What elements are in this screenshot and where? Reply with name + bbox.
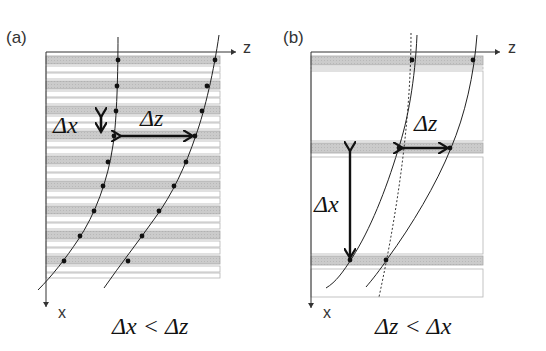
panel-a-x-label: x bbox=[58, 304, 66, 321]
panel-b: (b) z x Δz Δx Δz < Δx bbox=[283, 28, 516, 339]
panel-a-label: (a) bbox=[6, 28, 27, 47]
panel-b-z-label: z bbox=[508, 39, 516, 56]
panel-b-delta-x-label: Δx bbox=[313, 191, 339, 217]
panel-b-relation: Δz < Δx bbox=[374, 313, 452, 339]
panel-b-label: (b) bbox=[283, 28, 304, 47]
panel-b-delta-z-label: Δz bbox=[413, 110, 438, 136]
panel-b-x-label: x bbox=[323, 304, 331, 321]
panel-a-relation: Δx < Δz bbox=[111, 313, 189, 339]
panel-a: (a) bbox=[6, 28, 251, 339]
panel-b-layers bbox=[311, 56, 483, 297]
panel-a-delta-x-label: Δx bbox=[52, 112, 78, 138]
panel-a-delta-z-label: Δz bbox=[139, 105, 164, 131]
panel-a-z-label: z bbox=[243, 39, 251, 56]
figure-canvas: (a) bbox=[0, 0, 546, 351]
panel-a-layers bbox=[46, 56, 220, 278]
